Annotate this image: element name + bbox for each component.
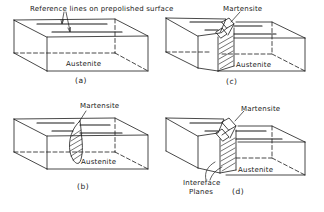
panel-d-interface-label-line2: Planes bbox=[189, 189, 213, 196]
martensite-formation-figure: Reference lines on prepolished surface A… bbox=[0, 0, 324, 212]
panel-c-austenite-label: Austenite bbox=[236, 62, 271, 69]
panel-d-interface-label-line1: Intereface bbox=[183, 180, 221, 187]
panel-b-leader-arrow bbox=[79, 111, 86, 122]
panel-a-leader-arrows bbox=[61, 12, 71, 32]
panel-b-austenite-label: Austenite bbox=[81, 159, 116, 166]
panel-a-reference-lines bbox=[37, 24, 122, 32]
panel-c-martensite-plate bbox=[216, 18, 234, 71]
panel-b-martensite-label: Martensite bbox=[80, 103, 119, 110]
panel-c-caption: (c) bbox=[226, 78, 237, 86]
panel-c-reference-lines bbox=[190, 22, 276, 34]
panel-c-leader-arrow bbox=[231, 12, 240, 22]
panel-c-martensite-label: Martensite bbox=[223, 6, 262, 13]
panel-b-reference-lines bbox=[37, 123, 122, 133]
panel-a-austenite-label: Austenite bbox=[66, 61, 101, 68]
panel-b-caption: (b) bbox=[77, 183, 89, 191]
panel-d-caption: (d) bbox=[232, 188, 244, 196]
panel-a-caption: (a) bbox=[75, 77, 87, 85]
panel-d-martensite-plate bbox=[216, 118, 236, 173]
panel-d-austenite-label: Austenite bbox=[238, 167, 273, 174]
panel-a-reference-lines-label: Reference lines on prepolished surface bbox=[30, 6, 174, 13]
panel-d-martensite-label: Martensite bbox=[241, 106, 280, 113]
